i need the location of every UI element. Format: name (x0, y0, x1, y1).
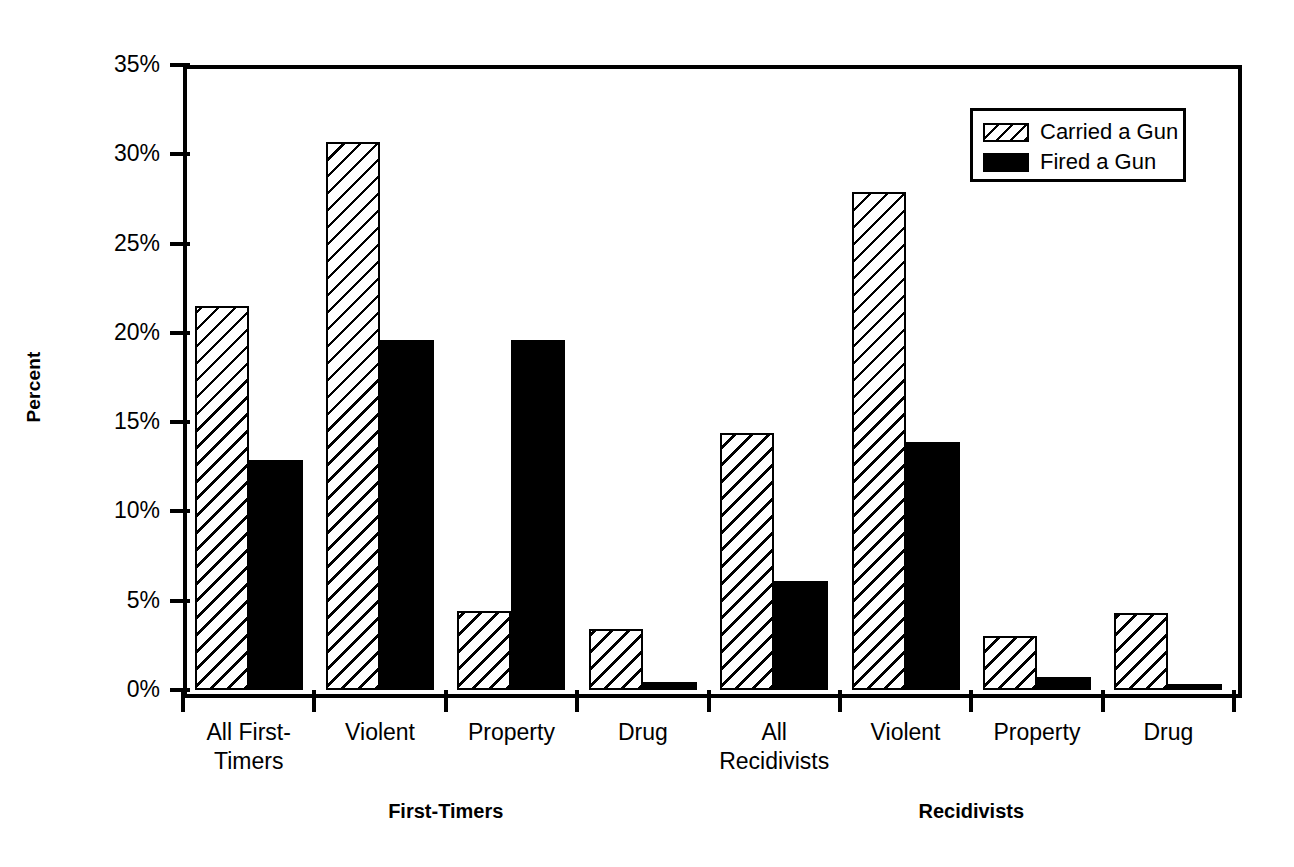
x-axis-tick (707, 690, 711, 712)
y-axis-tick-label: 35% (60, 53, 160, 76)
x-axis-tick (444, 690, 448, 712)
bar-hatched (1114, 613, 1168, 690)
x-axis-tick (181, 690, 185, 712)
bar-solid (643, 682, 697, 690)
x-axis-tick (969, 690, 973, 712)
chart-legend: Carried a Gun Fired a Gun (970, 108, 1186, 182)
y-axis-title: Percent (23, 327, 45, 447)
x-axis-category-label: Property (446, 718, 577, 747)
y-axis-tick-label: 10% (60, 499, 160, 522)
x-axis-tick (1101, 690, 1105, 712)
y-axis-tick-label: 15% (60, 410, 160, 433)
bar-hatched (983, 636, 1037, 690)
legend-label: Carried a Gun (1040, 121, 1178, 143)
legend-swatch-solid-icon (983, 153, 1029, 172)
legend-swatch-hatched-icon (983, 123, 1029, 142)
bar-solid (1168, 684, 1222, 690)
x-axis-category-label: All First- Timers (183, 718, 314, 776)
bar-solid (774, 581, 828, 690)
bar-hatched (720, 433, 774, 690)
y-axis-tick-label: 25% (60, 232, 160, 255)
x-axis-group-label: First-Timers (183, 800, 709, 823)
bar-solid (906, 442, 960, 690)
x-axis-category-label: Drug (1103, 718, 1234, 747)
y-axis-tick-label: 0% (60, 678, 160, 701)
legend-item: Fired a Gun (983, 147, 1175, 177)
bar-solid (249, 460, 303, 690)
legend-label: Fired a Gun (1040, 151, 1156, 173)
bar-solid (1037, 677, 1091, 690)
x-axis-category-label: Violent (314, 718, 445, 747)
bar-hatched (195, 306, 249, 690)
x-axis-category-label: Drug (577, 718, 708, 747)
legend-item: Carried a Gun (983, 117, 1175, 147)
y-axis-tick-label: 30% (60, 142, 160, 165)
bar-solid (511, 340, 565, 690)
bar-hatched (457, 611, 511, 690)
bar-hatched (852, 192, 906, 690)
bar-hatched (589, 629, 643, 690)
x-axis-category-label: Violent (840, 718, 971, 747)
x-axis-tick (838, 690, 842, 712)
x-axis-category-label: All Recidivists (709, 718, 840, 776)
bar-chart: Percent 0%5%10%15%20%25%30%35% All First… (0, 0, 1294, 867)
x-axis-tick (312, 690, 316, 712)
bar-solid (380, 340, 434, 690)
bar-hatched (326, 142, 380, 690)
y-axis-tick-label: 20% (60, 321, 160, 344)
x-axis-category-label: Property (971, 718, 1102, 747)
x-axis-group-label: Recidivists (709, 800, 1235, 823)
x-axis-tick (575, 690, 579, 712)
x-axis-tick (1232, 690, 1236, 712)
y-axis-tick-label: 5% (60, 589, 160, 612)
